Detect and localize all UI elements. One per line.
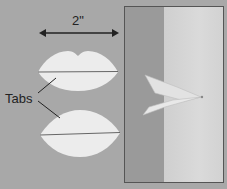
tabs-callout-label: Tabs <box>5 91 32 106</box>
popup-lips-shape <box>125 7 224 183</box>
dimension-label: 2" <box>66 13 90 28</box>
callout-line-bottom <box>38 101 60 118</box>
folded-card-photo <box>124 6 224 183</box>
lips-template-bottom <box>40 110 120 157</box>
dimension-arrow <box>39 29 119 37</box>
lips-template-top <box>38 51 118 91</box>
